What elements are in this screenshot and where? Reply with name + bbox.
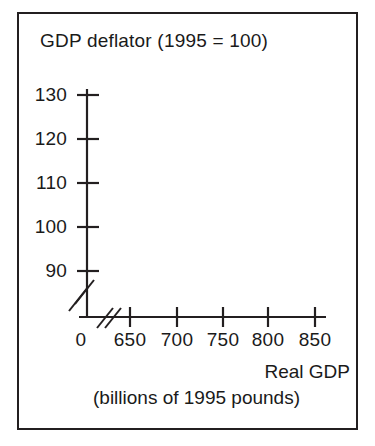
y-tick-label-130: 130	[15, 84, 67, 106]
x-axis-title-line-2: (billions of 1995 pounds)	[39, 385, 354, 411]
x-origin-label: 0	[76, 329, 87, 351]
x-axis-title: Real GDP (billions of 1995 pounds)	[39, 359, 354, 411]
x-tick-label-700: 700	[161, 329, 193, 351]
y-tick-label-110: 110	[15, 172, 67, 194]
x-axis-title-line-1: Real GDP	[39, 359, 354, 385]
x-tick-label-850: 850	[299, 329, 331, 351]
figure-frame: GDP deflator (1995 = 100) 130 120 110	[17, 12, 358, 430]
x-tick-label-800: 800	[252, 329, 284, 351]
x-tick-label-650: 650	[114, 329, 146, 351]
y-tick-label-100: 100	[15, 216, 67, 238]
y-tick-label-90: 90	[15, 260, 67, 282]
x-tick-label-750: 750	[207, 329, 239, 351]
axis-break-y-icon	[69, 280, 94, 311]
y-tick-label-120: 120	[15, 128, 67, 150]
